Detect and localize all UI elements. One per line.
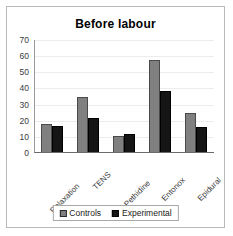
x-tick-label: Epidural xyxy=(196,176,223,203)
legend-label: Controls xyxy=(69,208,101,218)
chart-legend: ControlsExperimental xyxy=(52,205,178,221)
plot-area xyxy=(34,40,214,153)
plot-frame xyxy=(34,40,214,153)
chart-title: Before labour xyxy=(7,17,224,31)
y-tick-label: 30 xyxy=(20,100,29,110)
x-axis: RelaxationTENSPethidineEntonoxEpidural xyxy=(34,155,214,203)
y-axis: 010203040506070 xyxy=(7,40,31,153)
experimental-swatch-icon xyxy=(112,210,119,217)
y-tick-label: 40 xyxy=(20,83,29,93)
y-tick-label: 60 xyxy=(20,51,29,61)
chart-card: Before labour 010203040506070 Relaxation… xyxy=(6,6,225,228)
y-tick-label: 0 xyxy=(24,148,29,158)
y-tick-label: 50 xyxy=(20,67,29,77)
x-tick-label: TENS xyxy=(91,170,112,191)
controls-swatch-icon xyxy=(59,210,66,217)
legend-label: Experimental xyxy=(122,208,172,218)
legend-item[interactable]: Experimental xyxy=(112,208,172,218)
x-tick-label: Entonox xyxy=(160,176,187,203)
y-tick-label: 20 xyxy=(20,116,29,126)
legend-item[interactable]: Controls xyxy=(59,208,101,218)
y-tick-label: 10 xyxy=(20,132,29,142)
y-tick-label: 70 xyxy=(20,35,29,45)
